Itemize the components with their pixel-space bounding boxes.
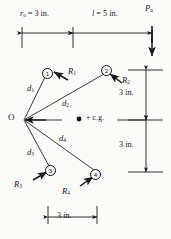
dim-label-l: l = 5 in. [92, 10, 118, 18]
right-dimension-group [128, 70, 163, 172]
bolt-marker-2[interactable]: 2 [101, 65, 112, 76]
figure-canvas: ro = 3 in. l = 5 in. Pu 1 2 3 4 R1 R2 R3… [0, 0, 171, 239]
distance-label-d3: d3 [27, 148, 34, 158]
distance-label-d2: d2 [62, 99, 69, 109]
instant-center-label-O: O [8, 113, 15, 122]
top-dimension-group [22, 26, 152, 48]
bolt-marker-4[interactable]: 4 [90, 169, 101, 180]
radial-distance-lines [24, 74, 104, 170]
bolt-marker-1[interactable]: 1 [42, 68, 53, 79]
dim-l-symbol: l [92, 9, 94, 18]
force-label-R3: R3 [14, 180, 22, 190]
force-arrow-R1 [54, 72, 68, 80]
cg-dot-marker [77, 117, 82, 122]
dim-label-right-lower: 3 in. [119, 141, 134, 149]
dim-label-bottom: 3 in. [57, 212, 72, 220]
applied-load-label: Pu [145, 4, 153, 14]
force-label-R1: R1 [68, 67, 76, 77]
cg-label: + c.g. [86, 114, 104, 122]
dim-label-ro: ro = 3 in. [20, 10, 49, 18]
force-label-R2: R2 [122, 76, 130, 86]
dim-ro-subscript: o [23, 12, 26, 18]
bottom-dimension-group [48, 206, 97, 224]
force-label-R4: R4 [62, 187, 70, 197]
dim-label-right-upper: 3 in. [119, 89, 134, 97]
distance-label-d1: d1 [27, 84, 34, 94]
force-arrow-R2 [110, 74, 122, 83]
dim-l-value: = 5 in. [96, 9, 117, 18]
bolt-marker-3[interactable]: 3 [45, 165, 56, 176]
dim-ro-value: = 3 in. [28, 9, 49, 18]
load-subscript: u [150, 7, 153, 13]
distance-label-d4: d4 [59, 134, 66, 144]
